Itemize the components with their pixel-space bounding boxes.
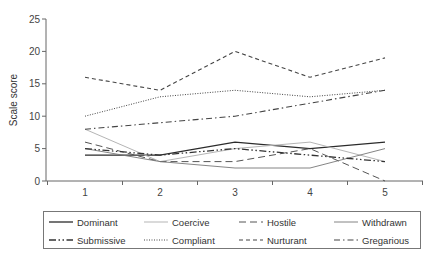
x-tick-label: 1 — [82, 187, 88, 198]
legend-label: Gregarious — [362, 235, 409, 246]
y-tick-label: 10 — [29, 111, 41, 122]
series-line-hostile — [85, 142, 385, 181]
chart-legend: DominantCoerciveHostileWithdrawnSubmissi… — [43, 211, 421, 249]
series-line-nurturant — [85, 51, 385, 90]
legend-swatch-icon — [333, 236, 359, 244]
legend-item-submissive: Submissive — [48, 231, 143, 249]
series-line-withdrawn — [85, 149, 385, 168]
x-tick-label: 5 — [382, 187, 388, 198]
legend-item-hostile: Hostile — [238, 213, 333, 231]
legend-item-nurturant: Nurturant — [238, 231, 333, 249]
axes: 051015202512345 — [29, 14, 423, 199]
y-tick-label: 0 — [34, 176, 40, 187]
x-tick-label: 3 — [232, 187, 238, 198]
y-tick-label: 15 — [29, 78, 41, 89]
y-axis-label: Scale score — [8, 73, 19, 126]
series-lines — [85, 51, 385, 181]
x-tick-label: 4 — [307, 187, 313, 198]
line-chart: 051015202512345 Scale score — [0, 0, 437, 210]
legend-item-compliant: Compliant — [143, 231, 238, 249]
legend-label: Dominant — [77, 217, 118, 228]
legend-item-dominant: Dominant — [48, 213, 143, 231]
legend-item-withdrawn: Withdrawn — [333, 213, 426, 231]
legend-swatch-icon — [143, 218, 169, 226]
y-tick-label: 5 — [34, 143, 40, 154]
legend-swatch-icon — [238, 218, 264, 226]
series-line-gregarious — [85, 90, 385, 129]
legend-swatch-icon — [48, 218, 74, 226]
legend-label: Hostile — [267, 217, 296, 228]
legend-swatch-icon — [48, 236, 74, 244]
legend-item-coercive: Coercive — [143, 213, 238, 231]
legend-label: Withdrawn — [362, 217, 407, 228]
legend-label: Coercive — [172, 217, 210, 228]
legend-label: Nurturant — [267, 235, 307, 246]
legend-label: Compliant — [172, 235, 215, 246]
y-tick-label: 25 — [29, 14, 41, 25]
y-tick-label: 20 — [29, 46, 41, 57]
legend-swatch-icon — [238, 236, 264, 244]
legend-label: Submissive — [77, 235, 126, 246]
legend-swatch-icon — [333, 218, 359, 226]
x-tick-label: 2 — [157, 187, 163, 198]
legend-swatch-icon — [143, 236, 169, 244]
legend-item-gregarious: Gregarious — [333, 231, 426, 249]
series-line-compliant — [85, 90, 385, 116]
